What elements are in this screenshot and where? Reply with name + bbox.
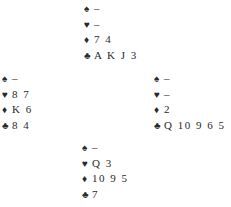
- north-clubs-cards: A K J 3: [94, 48, 138, 64]
- diamond-icon: ♦: [2, 102, 12, 118]
- west-clubs-cards: 8 4: [12, 118, 30, 134]
- club-icon: ♣: [82, 187, 92, 203]
- east-clubs-cards: Q 10 9 6 5: [164, 118, 225, 134]
- west-hearts-row: ♥ 8 7: [2, 87, 33, 103]
- south-hearts-row: ♥ Q 3: [82, 156, 129, 172]
- north-clubs-row: ♣ A K J 3: [84, 48, 138, 64]
- west-diamonds-cards: K 6: [12, 102, 33, 118]
- west-clubs-row: ♣ 8 4: [2, 118, 33, 134]
- north-diamonds-row: ♦ 7 4: [84, 32, 138, 48]
- east-diamonds-row: ♦ 2: [154, 102, 225, 118]
- south-clubs-row: ♣ 7: [82, 187, 129, 203]
- south-diamonds-cards: 10 9 5: [92, 171, 129, 187]
- east-hearts-cards: –: [164, 87, 171, 103]
- east-spades-cards: –: [164, 71, 171, 87]
- west-hand: ♠ – ♥ 8 7 ♦ K 6 ♣ 8 4: [2, 71, 33, 133]
- east-hand: ♠ – ♥ – ♦ 2 ♣ Q 10 9 6 5: [154, 71, 225, 133]
- north-diamonds-cards: 7 4: [94, 32, 112, 48]
- east-spades-row: ♠ –: [154, 71, 225, 87]
- heart-icon: ♥: [84, 17, 94, 33]
- west-spades-cards: –: [12, 71, 19, 87]
- heart-icon: ♥: [154, 87, 164, 103]
- club-icon: ♣: [2, 118, 12, 134]
- north-hand: ♠ – ♥ – ♦ 7 4 ♣ A K J 3: [84, 1, 138, 63]
- spade-icon: ♠: [2, 71, 12, 87]
- east-clubs-row: ♣ Q 10 9 6 5: [154, 118, 225, 134]
- heart-icon: ♥: [82, 156, 92, 172]
- heart-icon: ♥: [2, 87, 12, 103]
- club-icon: ♣: [154, 118, 164, 134]
- spade-icon: ♠: [154, 71, 164, 87]
- west-hearts-cards: 8 7: [12, 87, 30, 103]
- south-hand: ♠ – ♥ Q 3 ♦ 10 9 5 ♣ 7: [82, 140, 129, 202]
- south-spades-cards: –: [92, 140, 99, 156]
- diamond-icon: ♦: [84, 32, 94, 48]
- south-hearts-cards: Q 3: [92, 156, 113, 172]
- north-hearts-cards: –: [94, 17, 101, 33]
- east-diamonds-cards: 2: [164, 102, 171, 118]
- diamond-icon: ♦: [82, 171, 92, 187]
- south-clubs-cards: 7: [92, 187, 99, 203]
- south-spades-row: ♠ –: [82, 140, 129, 156]
- north-hearts-row: ♥ –: [84, 17, 138, 33]
- north-spades-row: ♠ –: [84, 1, 138, 17]
- east-hearts-row: ♥ –: [154, 87, 225, 103]
- spade-icon: ♠: [84, 1, 94, 17]
- west-spades-row: ♠ –: [2, 71, 33, 87]
- spade-icon: ♠: [82, 140, 92, 156]
- south-diamonds-row: ♦ 10 9 5: [82, 171, 129, 187]
- west-diamonds-row: ♦ K 6: [2, 102, 33, 118]
- club-icon: ♣: [84, 48, 94, 64]
- diamond-icon: ♦: [154, 102, 164, 118]
- north-spades-cards: –: [94, 1, 101, 17]
